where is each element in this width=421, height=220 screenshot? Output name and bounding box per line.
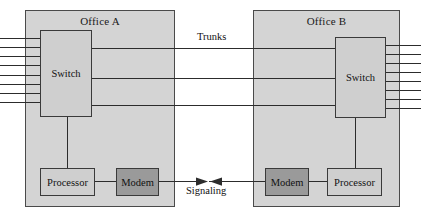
office-a-title: Office A [26,15,174,27]
subscriber-line-a-4 [0,65,40,66]
subscriber-line-b-8 [386,108,421,109]
modem-a-label: Modem [121,177,154,188]
trunk-line-2 [92,78,335,79]
processor-b-node: Processor [327,168,382,196]
processor-a-label: Processor [47,177,88,188]
trunk-line-3 [92,105,335,106]
subscriber-line-a-2 [0,47,40,48]
modem-b-label: Modem [271,177,304,188]
modem-b-to-processor-b-link [309,181,327,182]
subscriber-line-a-8 [0,102,40,103]
switch-a-node: Switch [40,30,92,117]
modem-b-node: Modem [265,168,309,196]
subscriber-line-b-7 [386,99,421,100]
signaling-label: Signaling [186,185,226,196]
subscriber-line-b-6 [386,90,421,91]
switch-a-label: Switch [51,68,80,79]
trunks-label: Trunks [197,31,226,42]
subscriber-line-b-2 [386,54,421,55]
office-b-title: Office B [254,15,399,27]
subscriber-line-a-1 [0,38,40,39]
trunk-line-1 [92,48,335,49]
switch-a-to-processor-a-link [67,117,68,168]
subscriber-line-a-7 [0,93,40,94]
network-diagram: Office A Office B Trunks Signaling Switc… [0,0,421,220]
switch-b-node: Switch [335,37,386,118]
subscriber-line-b-1 [386,45,421,46]
subscriber-line-b-5 [386,81,421,82]
modem-a-node: Modem [116,168,159,196]
switch-b-to-processor-b-link [355,118,356,168]
subscriber-line-b-4 [386,72,421,73]
subscriber-line-a-6 [0,84,40,85]
switch-b-label: Switch [346,72,375,83]
processor-a-node: Processor [40,168,95,196]
subscriber-line-a-5 [0,75,40,76]
subscriber-line-a-3 [0,56,40,57]
subscriber-line-b-3 [386,63,421,64]
processor-b-label: Processor [334,177,375,188]
processor-a-to-modem-a-link [95,181,116,182]
